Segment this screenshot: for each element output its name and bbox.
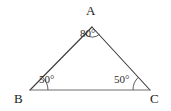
vertex-label-b: B [14,92,23,105]
angle-label-c: 50° [114,74,129,85]
vertex-label-a: A [86,4,95,17]
triangle-figure: A B C 80° 50° 50° [0,0,171,111]
angle-label-a: 80° [80,28,95,39]
angle-arc-c [133,77,138,90]
angle-label-b: 50° [39,74,54,85]
vertex-label-c: C [150,92,159,105]
